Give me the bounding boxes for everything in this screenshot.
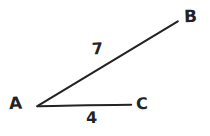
length-label-ab: 7 (91, 41, 103, 58)
geometry-canvas (0, 0, 210, 136)
vertex-label-a: A (9, 95, 23, 113)
vertex-label-c: C (136, 96, 148, 112)
segment-ab (37, 21, 178, 106)
segment-ac (38, 105, 132, 107)
length-label-ac: 4 (86, 110, 98, 126)
vertex-label-b: B (184, 8, 198, 25)
angle-diagram: A B C 7 4 (0, 0, 210, 136)
